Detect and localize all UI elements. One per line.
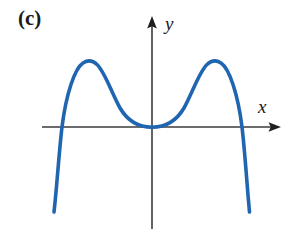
plot-canvas bbox=[0, 0, 288, 230]
figure-panel: (c) y x bbox=[0, 0, 288, 230]
x-axis-label: x bbox=[258, 97, 266, 116]
y-axis-label: y bbox=[165, 14, 173, 33]
